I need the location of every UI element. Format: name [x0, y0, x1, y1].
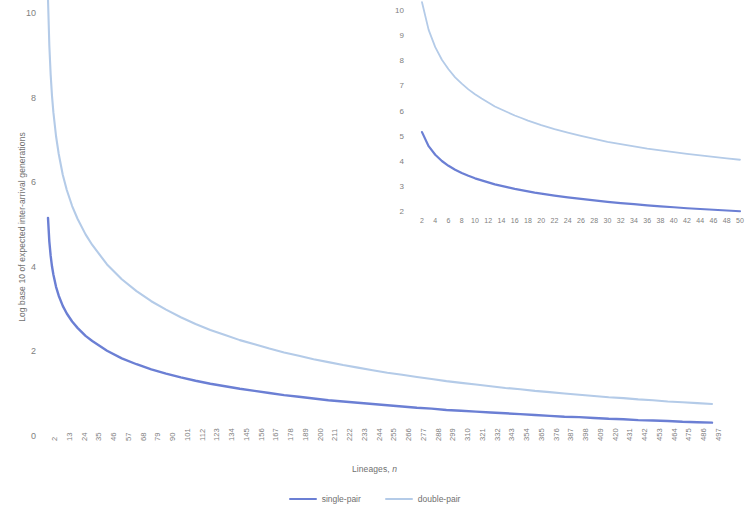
- legend-label-single-pair: single-pair: [322, 494, 361, 504]
- inset-curve-single-pair: [422, 132, 740, 211]
- chart-figure: Log base 10 of expected inter-arrival ge…: [0, 0, 749, 515]
- legend-swatch-double-pair: [385, 498, 413, 501]
- legend-swatch-single-pair: [289, 498, 317, 501]
- inset-plot: 1098765432 24681012141618202224262830323…: [388, 0, 749, 240]
- chart-legend: single-pair double-pair: [0, 494, 749, 504]
- legend-label-double-pair: double-pair: [418, 494, 461, 504]
- inset-plot-curves: [388, 0, 749, 240]
- legend-entry-double-pair[interactable]: double-pair: [385, 494, 461, 504]
- inset-curve-double-pair: [422, 2, 740, 160]
- curve-single-pair: [48, 218, 712, 423]
- legend-entry-single-pair[interactable]: single-pair: [289, 494, 361, 504]
